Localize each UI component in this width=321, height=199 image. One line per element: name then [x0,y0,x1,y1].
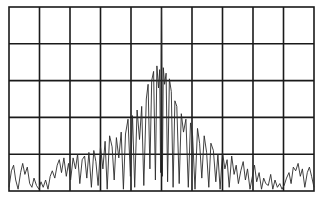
spectrum-plot [0,0,321,199]
